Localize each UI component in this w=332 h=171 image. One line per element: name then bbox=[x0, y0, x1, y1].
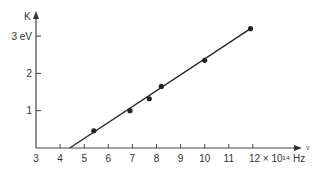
x-tick-label: 10 bbox=[199, 153, 211, 164]
data-point bbox=[159, 84, 164, 89]
x-ticks: 3456789101112 × 10¹⁴ Hz bbox=[33, 144, 305, 164]
x-axis-arrow-icon bbox=[294, 145, 302, 151]
x-tick-label: 9 bbox=[178, 153, 184, 164]
data-point bbox=[147, 96, 152, 101]
y-axis-arrow-icon bbox=[33, 11, 39, 19]
x-tick-label: 8 bbox=[154, 153, 160, 164]
x-tick-label: 4 bbox=[57, 153, 63, 164]
y-tick-label: 2 bbox=[26, 68, 32, 79]
axes bbox=[33, 11, 302, 151]
data-point bbox=[202, 58, 207, 63]
x-tick-label: 5 bbox=[81, 153, 87, 164]
x-tick-label: 3 bbox=[33, 153, 39, 164]
chart: 3456789101112 × 10¹⁴ Hz 123 eV K ν bbox=[0, 0, 332, 171]
x-tick-label: 12 × 10¹⁴ Hz bbox=[249, 153, 305, 164]
data-point bbox=[91, 128, 96, 133]
x-axis-label: ν bbox=[306, 144, 310, 151]
x-tick-label: 6 bbox=[106, 153, 112, 164]
y-tick-label: 1 bbox=[26, 105, 32, 116]
x-tick-label: 7 bbox=[130, 153, 136, 164]
data-point bbox=[248, 26, 253, 31]
x-tick-label: 11 bbox=[224, 153, 235, 164]
y-axis-label: K bbox=[24, 11, 31, 22]
y-tick-label: 3 eV bbox=[11, 31, 32, 42]
data-point bbox=[127, 108, 132, 113]
